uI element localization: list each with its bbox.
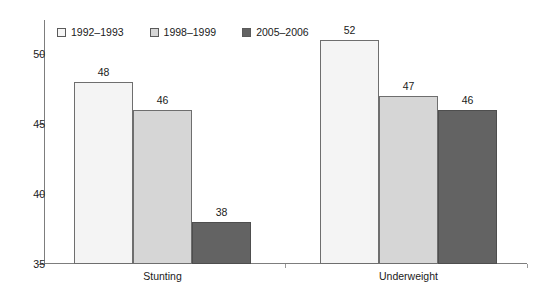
legend-label-1998-1999: 1998–1999 <box>164 27 217 38</box>
legend-label-2005-2006: 2005–2006 <box>256 27 309 38</box>
legend-item-1998-1999[interactable]: 1998–1999 <box>150 27 217 38</box>
legend-item-2005-2006[interactable]: 2005–2006 <box>242 27 309 38</box>
x-tick-mark-group-divider <box>285 264 286 268</box>
chart-legend: 1992–1993 1998–1999 2005–2006 <box>57 27 309 38</box>
legend-swatch-icon-1992-1993 <box>57 28 66 37</box>
x-tick-mark-end <box>527 264 528 268</box>
legend-item-1992-1993[interactable]: 1992–1993 <box>57 27 124 38</box>
y-tick-40: 40 <box>0 194 45 195</box>
y-tick-50: 50 <box>0 54 45 55</box>
bar-underweight-2005-2006[interactable] <box>438 110 497 264</box>
y-tick-label-35: 35 <box>11 259 45 270</box>
bar-value-underweight-2005-2006: 46 <box>438 95 497 106</box>
bar-value-stunting-1998-1999: 46 <box>133 95 192 106</box>
legend-swatch-icon-1998-1999 <box>150 28 159 37</box>
bar-stunting-2005-2006[interactable] <box>192 222 251 264</box>
bar-underweight-1992-1993[interactable] <box>320 40 379 264</box>
bar-chart: 1992–1993 1998–1999 2005–2006 50 45 40 3… <box>0 0 541 296</box>
legend-label-1992-1993: 1992–1993 <box>71 27 124 38</box>
y-tick-35: 35 <box>0 264 45 265</box>
bar-value-underweight-1998-1999: 47 <box>379 81 438 92</box>
y-tick-45: 45 <box>0 124 45 125</box>
bar-stunting-1992-1993[interactable] <box>74 82 133 264</box>
x-axis-label-stunting: Stunting <box>133 271 192 282</box>
plot-area: 48 46 38 52 47 46 <box>0 0 541 296</box>
legend-swatch-icon-2005-2006 <box>242 28 251 37</box>
bar-underweight-1998-1999[interactable] <box>379 96 438 264</box>
bar-value-stunting-1992-1993: 48 <box>74 67 133 78</box>
y-tick-label-40: 40 <box>11 189 45 200</box>
y-tick-label-45: 45 <box>11 119 45 130</box>
bar-value-stunting-2005-2006: 38 <box>192 207 251 218</box>
y-tick-label-50: 50 <box>11 49 45 60</box>
bar-value-underweight-1992-1993: 52 <box>320 25 379 36</box>
bar-stunting-1998-1999[interactable] <box>133 110 192 264</box>
x-axis-label-underweight: Underweight <box>379 271 438 282</box>
